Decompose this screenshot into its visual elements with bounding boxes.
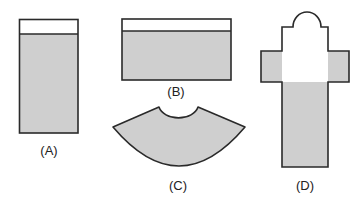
label-c: (C) [169,178,187,193]
container-d-stem-water [282,82,328,167]
label-a: (A) [40,143,57,158]
container-b-water [122,31,231,80]
container-c-outline [113,107,245,166]
container-d-right-arm-water [328,51,349,82]
container-b: (B) [122,19,231,99]
container-a: (A) [20,20,79,159]
container-d: (D) [261,12,349,193]
container-d-left-arm-water [261,51,282,82]
container-shapes-diagram: (A) (B) (C) (D) [0,0,362,202]
label-d: (D) [296,178,314,193]
label-b: (B) [167,84,184,99]
container-a-water [20,34,79,133]
container-c: (C) [113,107,245,193]
